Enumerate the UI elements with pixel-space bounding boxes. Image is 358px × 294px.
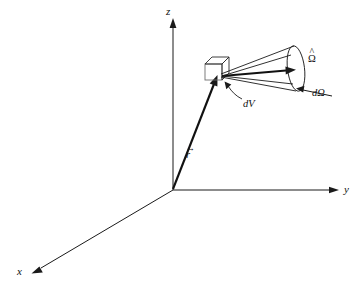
axis-x [32,190,174,274]
solid-angle-label: dΩ [312,88,325,99]
axis-z [170,18,177,190]
position-vector-shaft [173,84,214,189]
figure-canvas: z y x dV dΩ → r ^ Ω [0,0,358,294]
dv-leader-arrowhead [225,82,232,90]
dv-leader-line [228,86,242,99]
volume-element-label: dV [243,99,255,110]
y-axis-arrowhead [329,187,339,194]
x-axis-line [41,190,173,268]
axis-y [173,187,339,194]
direction-vector-arrowhead [285,67,296,75]
dv-leader [225,82,243,100]
y-axis-label: y [344,184,349,195]
diagram-svg [0,0,358,294]
domega-leader-arrowhead [296,86,304,93]
solid-angle-cone [221,45,307,92]
direction-unit-vector-label: ^ Ω [308,54,316,65]
cube-front-face [205,64,222,80]
cone-lower-edge [221,77,296,91]
position-vector-symbol-stack: → r [186,150,190,161]
vector-arrow-accent: → [186,144,190,153]
direction-vector [222,67,296,76]
position-vector-arrowhead [210,75,218,87]
x-axis-label: x [17,266,22,277]
hat-accent: ^ [308,47,316,57]
cone-ray-lower [222,76,293,84]
direction-unit-vector-symbol-stack: ^ Ω [308,54,316,65]
position-vector [173,75,218,189]
z-axis-label: z [166,6,170,17]
z-axis-arrowhead [170,18,177,28]
position-vector-label: → r [186,150,190,161]
